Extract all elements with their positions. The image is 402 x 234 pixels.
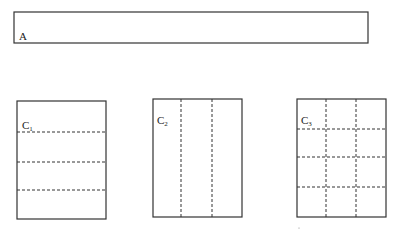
panel-c3: C3	[297, 99, 386, 217]
panel-c1: C1	[17, 101, 106, 219]
panel-c1-label: C1	[22, 119, 33, 133]
panel-c2: C2	[153, 99, 242, 217]
rect-a: A	[14, 12, 368, 43]
diagram-canvas: A C1 C2 C3	[0, 0, 402, 234]
panel-c2-label: C2	[157, 114, 168, 128]
rect-a-label: A	[19, 30, 27, 42]
stray-dot	[298, 227, 299, 228]
panel-c3-label: C3	[301, 114, 312, 128]
